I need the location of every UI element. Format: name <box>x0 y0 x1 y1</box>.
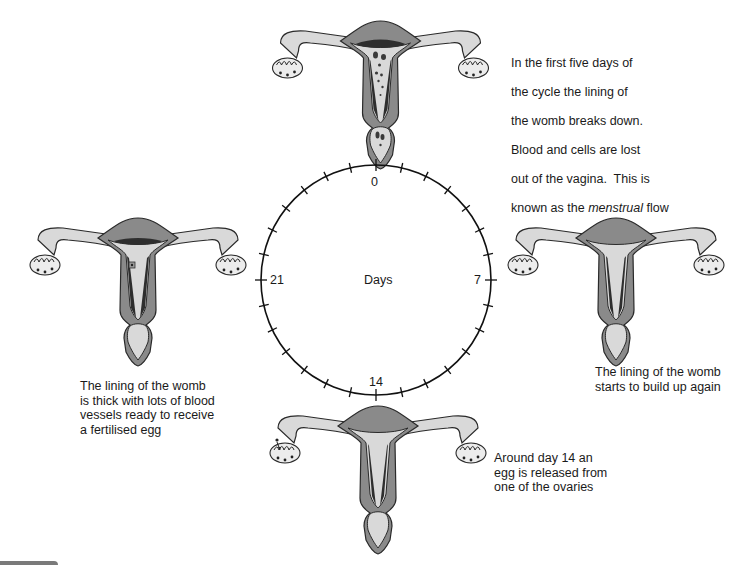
day-label-21: 21 <box>270 273 284 287</box>
caption-line: the cycle the lining of <box>511 85 669 100</box>
caption-line: In the first five days of <box>511 56 669 71</box>
caption-text: flow <box>643 201 669 215</box>
caption-line: the womb breaks down. <box>511 114 669 129</box>
center-days-label: Days <box>364 273 392 287</box>
caption-ovulation: Around day 14 an egg is released from on… <box>494 451 607 495</box>
day-label-0: 0 <box>371 175 378 189</box>
caption-text: known as the <box>511 201 588 215</box>
caption-rebuild: The lining of the womb starts to build u… <box>595 365 721 394</box>
menstrual-term: menstrual <box>588 201 643 215</box>
caption-line: out of the vagina. This is <box>511 172 669 187</box>
caption-menstruation: In the first five days of the cycle the … <box>511 41 669 230</box>
caption-line: known as the menstrual flow <box>511 201 669 216</box>
day-label-7: 7 <box>474 273 481 287</box>
day-label-14: 14 <box>369 375 383 389</box>
caption-thick-lining: The lining of the womb is thick with lot… <box>80 379 215 437</box>
corner-tab <box>0 561 58 565</box>
caption-line: Blood and cells are lost <box>511 143 669 158</box>
